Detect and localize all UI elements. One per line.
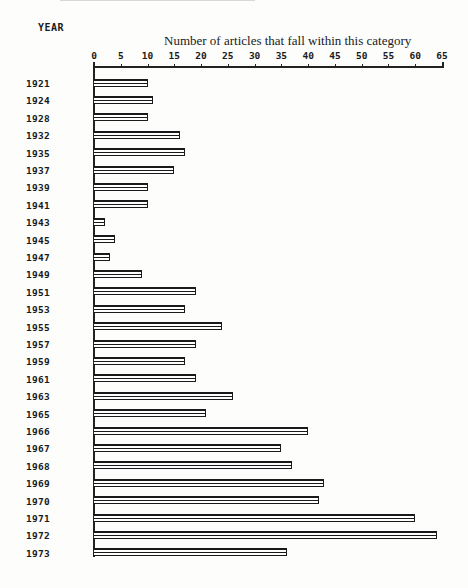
bar-1939 — [94, 183, 148, 191]
bar-1972 — [94, 531, 437, 539]
year-label: 1921 — [26, 78, 50, 89]
year-label: 1959 — [26, 356, 50, 367]
x-tick-mark — [335, 64, 336, 68]
year-label: 1961 — [26, 373, 50, 384]
year-label: 1949 — [26, 269, 50, 280]
x-tick-mark — [121, 64, 122, 68]
bar-1965 — [94, 409, 206, 417]
x-tick-label: 10 — [142, 50, 153, 61]
x-tick-mark — [442, 64, 443, 68]
x-tick-label: 5 — [118, 50, 124, 61]
x-tick-label: 0 — [91, 50, 97, 61]
x-tick-label: 30 — [249, 50, 260, 61]
x-tick-mark — [255, 64, 256, 68]
year-label: 1941 — [26, 199, 50, 210]
year-label: 1924 — [26, 95, 50, 106]
year-label: 1953 — [26, 304, 50, 315]
bar-1973 — [94, 548, 287, 556]
x-axis-line — [94, 66, 443, 68]
bar-1951 — [94, 287, 196, 295]
bar-1949 — [94, 270, 142, 278]
bar-1967 — [94, 444, 281, 452]
bar-1970 — [94, 496, 319, 504]
x-tick-label: 35 — [276, 50, 287, 61]
x-tick-mark — [388, 64, 389, 68]
year-label: 1947 — [26, 252, 50, 263]
bar-1957 — [94, 340, 196, 348]
bar-1966 — [94, 427, 308, 435]
bar-1969 — [94, 479, 324, 487]
year-label: 1939 — [26, 182, 50, 193]
year-label: 1968 — [26, 460, 50, 471]
x-tick-label: 60 — [409, 50, 420, 61]
y-axis-label: YEAR — [38, 22, 64, 33]
x-tick-mark — [228, 64, 229, 68]
x-tick-mark — [201, 64, 202, 68]
bar-1959 — [94, 357, 185, 365]
year-label: 1937 — [26, 165, 50, 176]
year-label: 1955 — [26, 321, 50, 332]
year-label: 1966 — [26, 426, 50, 437]
year-label: 1963 — [26, 391, 50, 402]
year-label: 1945 — [26, 234, 50, 245]
x-tick-mark — [415, 64, 416, 68]
x-tick-mark — [148, 64, 149, 68]
bar-1963 — [94, 392, 233, 400]
bar-1971 — [94, 514, 415, 522]
bar-1947 — [94, 253, 110, 261]
year-label: 1972 — [26, 530, 50, 541]
x-tick-label: 15 — [169, 50, 180, 61]
year-label: 1935 — [26, 147, 50, 158]
x-tick-mark — [94, 64, 95, 68]
year-label: 1932 — [26, 130, 50, 141]
year-label: 1928 — [26, 112, 50, 123]
x-tick-label: 20 — [195, 50, 206, 61]
year-label: 1967 — [26, 443, 50, 454]
x-tick-label: 50 — [356, 50, 367, 61]
year-label: 1957 — [26, 339, 50, 350]
bar-1932 — [94, 131, 180, 139]
year-label: 1971 — [26, 513, 50, 524]
bar-1941 — [94, 200, 148, 208]
scan-artifact-line — [60, 0, 255, 1]
x-tick-mark — [362, 64, 363, 68]
x-tick-label: 55 — [383, 50, 394, 61]
bar-1955 — [94, 322, 222, 330]
x-tick-mark — [174, 64, 175, 68]
bar-1968 — [94, 461, 292, 469]
bar-1953 — [94, 305, 185, 313]
year-label: 1943 — [26, 217, 50, 228]
bar-1924 — [94, 96, 153, 104]
x-tick-mark — [281, 64, 282, 68]
bar-1961 — [94, 374, 196, 382]
bar-1921 — [94, 79, 148, 87]
x-tick-label: 40 — [302, 50, 313, 61]
bar-1935 — [94, 148, 185, 156]
x-tick-label: 45 — [329, 50, 340, 61]
year-label: 1973 — [26, 547, 50, 558]
x-tick-label: 65 — [436, 50, 447, 61]
bar-1928 — [94, 113, 148, 121]
year-label: 1969 — [26, 478, 50, 489]
year-label: 1965 — [26, 408, 50, 419]
bar-1943 — [94, 218, 105, 226]
x-tick-label: 25 — [222, 50, 233, 61]
bar-1937 — [94, 166, 174, 174]
year-label: 1951 — [26, 286, 50, 297]
year-label: 1970 — [26, 495, 50, 506]
bar-1945 — [94, 235, 115, 243]
x-tick-mark — [308, 64, 309, 68]
x-axis-title: Number of articles that fall within this… — [164, 33, 411, 49]
